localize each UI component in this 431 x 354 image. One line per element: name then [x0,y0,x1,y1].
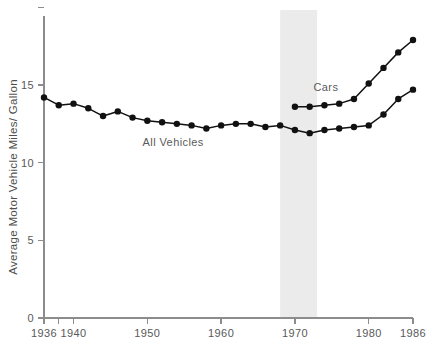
y-tick-label-5: 5 [27,234,34,246]
data-point [144,118,150,124]
data-point [233,121,239,127]
x-tick-label-1970: 1970 [282,327,308,339]
y-tick-label-0: 0 [27,312,34,324]
x-tick-label-1950: 1950 [134,327,160,339]
data-point [188,122,194,128]
data-point [395,49,401,55]
data-point [85,105,91,111]
data-point [41,94,47,100]
data-point [292,104,298,110]
y-tick-label-15: 15 [21,79,34,91]
data-point [115,108,121,114]
x-tick-label-1980: 1980 [356,327,382,339]
mpg-line-chart: 051015 1936194019501960197019801986 Aver… [0,0,431,354]
x-tick-label-1960: 1960 [208,327,234,339]
data-point [56,102,62,108]
data-point [336,100,342,106]
x-tick-label-1936: 1936 [31,327,57,339]
data-point [321,127,327,133]
data-point [410,37,416,43]
data-point [366,122,372,128]
data-point [351,124,357,130]
data-point [366,80,372,86]
data-point [277,122,283,128]
data-point [306,130,312,136]
data-point [218,122,224,128]
shaded-period-band [280,10,317,318]
data-point [306,104,312,110]
series-label-cars: Cars [314,81,339,93]
chart-container: 051015 1936194019501960197019801986 Aver… [0,0,431,354]
y-axis-ticks: 051015 [21,7,44,324]
data-point [159,119,165,125]
series-group [41,37,416,137]
data-point [395,96,401,102]
data-point [380,65,386,71]
data-point [410,86,416,92]
data-point [336,125,342,131]
data-point [70,100,76,106]
data-point [100,113,106,119]
data-point [129,114,135,120]
data-point [292,127,298,133]
y-axis-title: Average Motor Vehicle Miles/ Gallon [7,79,19,275]
data-point [351,96,357,102]
x-tick-label-1986: 1986 [400,327,426,339]
series-label-all-vehicles: All Vehicles [143,136,204,148]
data-point [247,121,253,127]
y-tick-label-10: 10 [21,157,34,169]
x-axis-ticks: 1936194019501960197019801986 [31,318,426,339]
x-tick-label-1940: 1940 [60,327,86,339]
data-point [203,125,209,131]
data-point [262,124,268,130]
data-point [174,121,180,127]
data-point [321,102,327,108]
data-point [380,111,386,117]
